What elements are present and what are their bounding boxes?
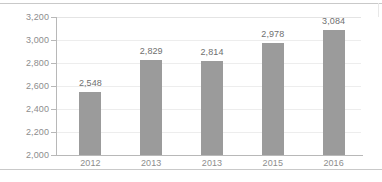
chart-frame-right-border [378, 3, 379, 17]
y-axis-tick-label: 3,200 [1, 13, 49, 22]
bar-chart: 3,2003,0002,8002,6002,4002,2002,000 2,54… [0, 0, 382, 182]
x-axis-category-labels: 20122013201320152016 [57, 0, 361, 182]
x-axis-category-label: 2012 [60, 159, 120, 168]
x-axis-category-label: 2013 [121, 159, 181, 168]
x-axis-category-label: 2016 [304, 159, 364, 168]
x-axis-category-label: 2013 [182, 159, 242, 168]
y-axis-tick-label: 2,800 [1, 59, 49, 68]
y-axis-tick-label: 3,000 [1, 36, 49, 45]
y-axis-tick-label: 2,200 [1, 128, 49, 137]
y-axis-tick-labels: 3,2003,0002,8002,6002,4002,2002,000 [0, 0, 49, 182]
x-axis-category-label: 2015 [243, 159, 303, 168]
y-axis-tick-label: 2,600 [1, 82, 49, 91]
y-axis-tick-label: 2,000 [1, 151, 49, 160]
y-axis-tick-label: 2,400 [1, 105, 49, 114]
